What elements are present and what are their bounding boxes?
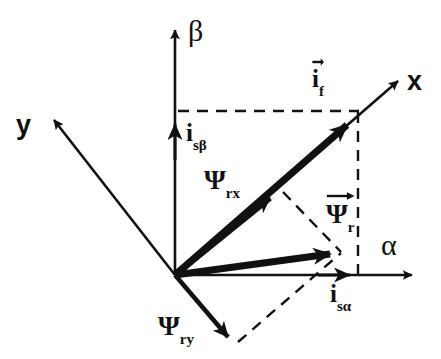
alpha-axis-label: α bbox=[381, 230, 397, 260]
isalpha-label-subscript: sα bbox=[337, 298, 351, 314]
x-axis-label: x bbox=[407, 68, 422, 95]
if-label-subscript: f bbox=[319, 83, 324, 99]
beta-axis-label: β bbox=[188, 16, 203, 46]
psi-r-label-subscript: r bbox=[348, 219, 355, 235]
y-axis-line bbox=[54, 120, 175, 275]
space-vectors-group bbox=[175, 125, 347, 337]
psi-ry-component-label: Ψry bbox=[158, 312, 194, 342]
psi-r-label-base: Ψ bbox=[326, 198, 348, 229]
isbeta-label-subscript: sβ bbox=[193, 137, 207, 153]
if-label-block: if bbox=[312, 66, 324, 94]
isalpha-component-label: isα bbox=[330, 281, 351, 309]
psi-rx-label-subscript: rx bbox=[226, 185, 240, 201]
isbeta-label-base: i bbox=[186, 119, 193, 146]
y-axis-label: y bbox=[16, 112, 31, 139]
psi-rx-component-label: Ψrx bbox=[204, 166, 240, 196]
psi-r-label-block: Ψr bbox=[326, 200, 355, 230]
psi-r-vector-label: Ψr bbox=[326, 200, 355, 230]
psi-ry-label-base: Ψ bbox=[158, 310, 180, 341]
if-label-base: i bbox=[312, 65, 319, 92]
isbeta-component-label: isβ bbox=[186, 120, 207, 148]
psi-rx-label-base: Ψ bbox=[204, 164, 226, 195]
psi-ry-label-subscript: ry bbox=[180, 331, 194, 347]
isalpha-label-base: i bbox=[330, 280, 337, 307]
if-vector-label: if bbox=[312, 66, 324, 94]
vector-diagram: β α x y if Ψr Ψrx Ψry isβ bbox=[0, 0, 441, 359]
